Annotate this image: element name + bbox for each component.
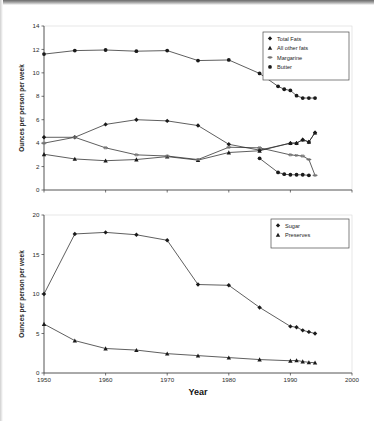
x-tick-label: 1990 <box>284 376 298 383</box>
scan-artifact-top <box>0 0 374 5</box>
y-tick-label: 12 <box>33 46 40 53</box>
data-point-total-fats <box>103 122 107 126</box>
data-point-preserves <box>42 322 46 326</box>
legend-label-butter: Butter <box>277 64 292 70</box>
y-tick-label: 6 <box>36 116 40 123</box>
data-point-butter <box>282 87 286 91</box>
y-tick-label: 4 <box>36 139 40 146</box>
y-axis-title: Ounces per person per week <box>18 250 26 338</box>
sugar-chart: 05101520195019601970198019902000Ounces p… <box>0 205 374 415</box>
data-point-butter <box>313 96 317 100</box>
legend-label-all-other-fats: All other fats <box>277 45 308 51</box>
data-point-butter-low-tail <box>307 173 311 177</box>
legend-box <box>263 32 349 80</box>
x-tick-label: 1950 <box>37 376 51 383</box>
data-point-sugar <box>301 328 305 332</box>
data-point-butter <box>307 96 311 100</box>
legend-label-preserves: Preserves <box>285 232 310 238</box>
data-point-butter-low-tail <box>301 173 305 177</box>
data-point-butter <box>165 49 169 53</box>
data-point-total-fats <box>165 119 169 123</box>
data-point-butter <box>289 89 293 93</box>
data-point-sugar <box>165 238 169 242</box>
data-point-butter <box>258 72 262 76</box>
y-tick-label: 20 <box>33 211 40 218</box>
x-tick-label: 1970 <box>160 376 174 383</box>
data-point-preserves <box>73 338 77 342</box>
x-tick-label: 1980 <box>222 376 236 383</box>
data-point-butter-low-tail <box>295 173 299 177</box>
sugar-chart-svg: 05101520195019601970198019902000Ounces p… <box>0 205 374 415</box>
y-tick-label: 8 <box>36 92 40 99</box>
data-point-butter <box>135 49 139 53</box>
legend-label-margarine: Margarine <box>277 55 302 61</box>
data-point-total-fats <box>196 123 200 127</box>
x-tick-label: 1960 <box>99 376 113 383</box>
data-point-butter <box>104 48 108 52</box>
data-point-sugar <box>288 324 292 328</box>
legend-label-sugar: Sugar <box>285 223 300 229</box>
data-point-sugar <box>196 282 200 286</box>
legend-marker-butter <box>268 65 272 69</box>
data-point-butter-low-tail <box>289 173 293 177</box>
y-tick-label: 14 <box>33 22 40 29</box>
series-line-preserves <box>44 324 315 363</box>
y-tick-label: 0 <box>36 186 40 193</box>
data-point-butter <box>301 96 305 100</box>
data-point-sugar <box>294 325 298 329</box>
data-point-sugar <box>73 232 77 236</box>
data-point-total-fats <box>42 135 46 139</box>
data-point-butter <box>295 94 299 98</box>
data-point-butter-low-tail <box>282 172 286 176</box>
data-point-sugar <box>134 233 138 237</box>
data-point-butter <box>276 84 280 88</box>
data-point-all-other-fats <box>42 152 46 156</box>
data-point-butter <box>42 52 46 56</box>
fats-chart-svg: 02468101214Ounces per person per weekTot… <box>0 8 374 208</box>
legend-label-total-fats: Total Fats <box>277 36 301 42</box>
data-point-sugar <box>307 330 311 334</box>
y-tick-label: 10 <box>33 69 40 76</box>
data-point-butter <box>227 58 231 62</box>
series-line-total-fats <box>44 120 315 150</box>
data-point-total-fats <box>134 118 138 122</box>
x-tick-label: 2000 <box>345 376 359 383</box>
y-tick-label: 5 <box>36 330 40 337</box>
y-tick-label: 2 <box>36 163 40 170</box>
data-point-butter <box>196 59 200 63</box>
data-point-butter-low-tail <box>276 171 280 175</box>
y-tick-label: 10 <box>33 290 40 297</box>
data-point-butter <box>73 49 77 53</box>
data-point-sugar <box>313 331 317 335</box>
fats-chart: 02468101214Ounces per person per weekTot… <box>0 8 374 208</box>
data-point-sugar <box>103 230 107 234</box>
y-tick-label: 15 <box>33 251 40 258</box>
y-axis-title: Ounces per person per week <box>18 64 26 152</box>
data-point-sugar <box>42 292 46 296</box>
x-axis-title: Year <box>188 387 208 397</box>
data-point-butter-low-tail <box>258 156 262 160</box>
